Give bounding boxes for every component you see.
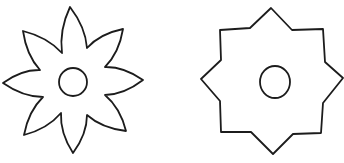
flower-center-circle <box>59 68 87 96</box>
star-shape <box>201 8 343 154</box>
flower-shape <box>3 7 143 153</box>
line-drawing-canvas <box>0 0 344 163</box>
star-center-circle <box>260 66 290 98</box>
